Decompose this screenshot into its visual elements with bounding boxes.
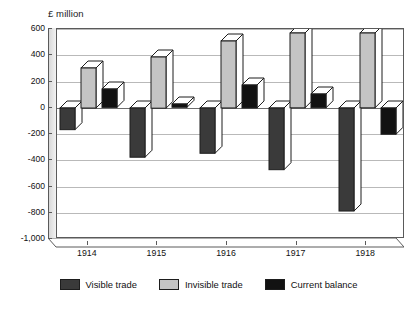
x-tick-label-1915: 1915 (147, 248, 167, 258)
plot-area (56, 28, 404, 238)
bar-current-balance-1917 (311, 94, 326, 108)
legend-item-current-balance[interactable]: Current balance (265, 279, 358, 290)
chart-root: £ million 6004002000-200-400-600-800-1,0… (0, 0, 417, 335)
bar-current-balance-1914 (102, 89, 117, 107)
y-tick-label: -800 (2, 207, 48, 217)
x-axis: 19141915191619171918 (0, 246, 417, 268)
gridline-600 (57, 29, 403, 30)
bar-invisible-trade-1918 (360, 33, 375, 108)
legend-swatch-icon (159, 279, 179, 290)
bar-current-balance-1916 (242, 85, 257, 108)
legend-item-invisible-trade[interactable]: Invisible trade (159, 279, 243, 290)
legend-swatch-icon (60, 279, 80, 290)
gridline--800 (57, 213, 403, 214)
bar-visible-trade-1915 (130, 108, 145, 157)
x-tick-label-1918: 1918 (355, 248, 375, 258)
bar-visible-trade-1914 (60, 108, 75, 130)
y-axis-unit-label: £ million (48, 8, 84, 19)
legend-label: Visible trade (86, 279, 137, 290)
x-tick-mark (156, 241, 157, 245)
bar-invisible-trade-1917 (290, 33, 305, 108)
y-tick-label: 200 (2, 76, 48, 86)
bar-current-balance-1915 (172, 104, 187, 107)
x-tick-mark (296, 241, 297, 245)
y-tick-label: -1,000 (2, 233, 48, 243)
y-tick-label: -600 (2, 181, 48, 191)
y-tick-label: -200 (2, 128, 48, 138)
x-tick-label-1917: 1917 (286, 248, 306, 258)
bar-visible-trade-1917 (269, 108, 284, 170)
bar-invisible-trade-1915 (151, 57, 166, 108)
x-tick-label-1914: 1914 (77, 248, 97, 258)
y-tick-label: 400 (2, 49, 48, 59)
x-tick-label-1916: 1916 (216, 248, 236, 258)
y-tick-label: -400 (2, 154, 48, 164)
x-tick-mark (87, 241, 88, 245)
bar-invisible-trade-1916 (221, 41, 236, 108)
legend-label: Current balance (291, 279, 358, 290)
legend-swatch-icon (265, 279, 285, 290)
x-tick-mark (365, 241, 366, 245)
y-tick-label: 600 (2, 23, 48, 33)
bar-visible-trade-1916 (200, 108, 215, 153)
bar-current-balance-1918 (381, 108, 396, 134)
bar-visible-trade-1918 (339, 108, 354, 211)
bar-invisible-trade-1914 (81, 68, 96, 108)
legend-item-visible-trade[interactable]: Visible trade (60, 279, 137, 290)
x-tick-mark (226, 241, 227, 245)
chart-legend: Visible tradeInvisible tradeCurrent bala… (0, 272, 417, 296)
legend-label: Invisible trade (185, 279, 243, 290)
y-tick-label: 0 (2, 102, 48, 112)
